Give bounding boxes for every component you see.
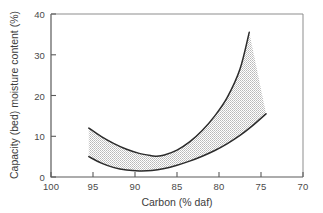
x-tick-label-95: 95	[88, 181, 99, 192]
x-tick-label-90: 90	[130, 181, 141, 192]
x-axis-title: Carbon (% daf)	[141, 196, 212, 208]
x-tick-label-85: 85	[172, 181, 183, 192]
x-tick-label-75: 75	[256, 181, 267, 192]
x-tick-label-70: 70	[298, 181, 309, 192]
y-tick-label-10: 10	[19, 131, 45, 142]
y-tick-label-0: 0	[19, 172, 45, 183]
y-tick-label-40: 40	[19, 9, 45, 20]
chart-figure: 100 95 90 85 80 75 70 40 30 20 10 0 Carb…	[0, 0, 323, 213]
y-tick-label-30: 30	[19, 49, 45, 60]
x-tick-label-100: 100	[43, 181, 59, 192]
y-axis-ticks	[51, 14, 56, 177]
x-tick-label-80: 80	[214, 181, 225, 192]
y-axis-title: Capacity (bed) moisture content (%)	[8, 5, 20, 185]
x-axis-ticks	[51, 172, 303, 177]
y-tick-label-20: 20	[19, 90, 45, 101]
